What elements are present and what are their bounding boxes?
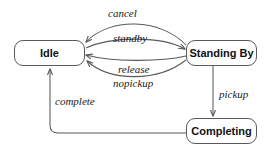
edge-label-cancel: cancel [108,7,137,19]
state-label-standing-by: Standing By [189,47,253,59]
state-node-completing[interactable]: Completing [186,118,257,144]
edge-label-standby: standby [113,32,147,44]
state-node-standing-by[interactable]: Standing By [186,40,257,66]
edge-release [86,55,186,60]
state-label-idle: Idle [40,47,59,59]
state-label-completing: Completing [191,125,252,137]
edge-label-pickup: pickup [219,88,248,100]
state-node-idle[interactable]: Idle [14,40,85,66]
edge-label-release: release [118,63,149,75]
edge-label-complete: complete [55,95,95,107]
edge-label-nopickup: nopickup [113,77,153,89]
state-diagram: Idle Standing By Completing cancel stand… [0,0,266,153]
